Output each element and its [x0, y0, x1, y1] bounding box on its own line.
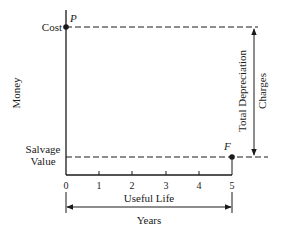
tick-label-2: 2: [130, 180, 135, 191]
useful-life-label: Useful Life: [124, 192, 175, 204]
salvage-label-line1: Salvage: [26, 143, 61, 155]
tick-label-5: 5: [230, 180, 235, 191]
tick-label-1: 1: [97, 180, 102, 191]
tick-label-4: 4: [197, 180, 202, 191]
y-axis-label: Money: [10, 77, 22, 109]
point-f-marker: [229, 154, 235, 160]
point-p-label: P: [69, 12, 77, 24]
point-p-marker: [63, 24, 69, 30]
depreciation-label-line1: Total Depreciation: [236, 50, 248, 133]
x-axis-ticks: [99, 157, 232, 175]
depreciation-label-line2: Charges: [256, 73, 268, 109]
tick-label-0: 0: [64, 180, 69, 191]
depreciation-diagram: 0 1 2 3 4 5 Money P Cost F Salvage Value…: [0, 0, 281, 233]
years-label: Years: [137, 214, 162, 226]
salvage-label-line2: Value: [30, 155, 55, 167]
cost-label: Cost: [42, 21, 62, 33]
tick-label-3: 3: [164, 180, 169, 191]
point-f-letter: F: [223, 140, 231, 152]
